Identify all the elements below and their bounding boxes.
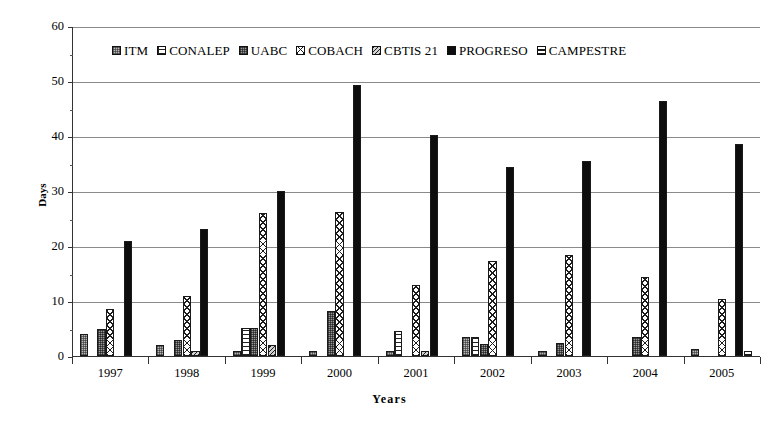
legend-swatch-icon bbox=[157, 46, 166, 55]
legend-swatch-icon bbox=[447, 46, 456, 55]
x-tick-label: 2000 bbox=[305, 366, 375, 381]
y-tick-label: 10 bbox=[30, 295, 64, 307]
bar bbox=[659, 101, 667, 356]
legend-swatch-icon bbox=[537, 46, 546, 55]
legend-label: COBACH bbox=[308, 44, 363, 57]
bar bbox=[632, 337, 640, 356]
legend-label: PROGRESO bbox=[459, 44, 528, 57]
x-tick-mark bbox=[454, 357, 455, 364]
x-axis-title: Years bbox=[0, 392, 779, 407]
x-tick-label: 1997 bbox=[75, 366, 145, 381]
legend-label: ITM bbox=[124, 44, 148, 57]
bar bbox=[200, 229, 208, 356]
bar bbox=[744, 351, 752, 357]
x-tick-mark bbox=[531, 357, 532, 364]
legend-item: CAMPESTRE bbox=[537, 44, 626, 57]
legend-label: CBTIS 21 bbox=[384, 44, 438, 57]
x-tick-label: 2003 bbox=[534, 366, 604, 381]
legend-label: CONALEP bbox=[169, 44, 230, 57]
bar bbox=[97, 329, 105, 357]
bar bbox=[353, 85, 361, 356]
bar bbox=[412, 285, 420, 357]
x-tick-label: 2002 bbox=[457, 366, 527, 381]
bar bbox=[462, 337, 470, 356]
legend-label: UABC bbox=[251, 44, 288, 57]
bar bbox=[268, 345, 276, 356]
bar bbox=[471, 337, 479, 356]
legend-swatch-icon bbox=[372, 46, 381, 55]
chart-legend: ITMCONALEPUABCCOBACHCBTIS 21PROGRESOCAMP… bbox=[112, 44, 635, 57]
bar bbox=[183, 296, 191, 357]
y-tick-label: 20 bbox=[30, 240, 64, 252]
x-tick-label: 1999 bbox=[228, 366, 298, 381]
bar bbox=[582, 161, 590, 356]
bar bbox=[191, 351, 199, 357]
bar bbox=[309, 351, 317, 357]
bar bbox=[538, 351, 546, 357]
bar bbox=[718, 299, 726, 356]
bar bbox=[506, 167, 514, 356]
bar bbox=[250, 328, 258, 356]
x-tick-mark bbox=[301, 357, 302, 364]
legend-item: PROGRESO bbox=[447, 44, 528, 57]
bar bbox=[124, 241, 132, 357]
bar bbox=[565, 255, 573, 356]
x-tick-label: 1998 bbox=[152, 366, 222, 381]
bar bbox=[106, 309, 114, 356]
x-tick-label: 2005 bbox=[687, 366, 757, 381]
y-tick-label: 0 bbox=[30, 350, 64, 362]
x-tick-mark bbox=[148, 357, 149, 364]
bars-layer bbox=[73, 27, 760, 356]
bar bbox=[174, 340, 182, 357]
x-tick-mark bbox=[225, 357, 226, 364]
y-tick-label: 60 bbox=[30, 20, 64, 32]
plot-area bbox=[72, 27, 760, 357]
x-tick-mark bbox=[607, 357, 608, 364]
bar bbox=[327, 311, 335, 356]
legend-item: UABC bbox=[239, 44, 288, 57]
legend-item: ITM bbox=[112, 44, 148, 57]
x-tick-label: 2004 bbox=[610, 366, 680, 381]
bar bbox=[259, 213, 267, 356]
legend-swatch-icon bbox=[296, 46, 305, 55]
bar bbox=[691, 349, 699, 356]
legend-item: CONALEP bbox=[157, 44, 230, 57]
bar bbox=[241, 328, 249, 356]
bar-chart: Days 0102030405060 199719981999200020012… bbox=[0, 0, 779, 428]
bar bbox=[735, 144, 743, 356]
x-tick-mark bbox=[760, 357, 761, 364]
bar bbox=[421, 351, 429, 357]
bar bbox=[480, 344, 488, 356]
bar bbox=[556, 343, 564, 356]
y-tick-label: 50 bbox=[30, 75, 64, 87]
legend-swatch-icon bbox=[112, 46, 121, 55]
bar bbox=[394, 331, 402, 356]
bar bbox=[277, 191, 285, 356]
y-tick-label: 40 bbox=[30, 130, 64, 142]
bar bbox=[335, 212, 343, 356]
bar bbox=[233, 351, 241, 357]
bar bbox=[430, 135, 438, 356]
legend-item: COBACH bbox=[296, 44, 363, 57]
bar bbox=[386, 351, 394, 357]
legend-item: CBTIS 21 bbox=[372, 44, 438, 57]
legend-label: CAMPESTRE bbox=[549, 44, 626, 57]
x-tick-label: 2001 bbox=[381, 366, 451, 381]
x-tick-mark bbox=[378, 357, 379, 364]
bar bbox=[156, 345, 164, 356]
bar bbox=[80, 334, 88, 356]
legend-swatch-icon bbox=[239, 46, 248, 55]
bar bbox=[488, 261, 496, 356]
y-tick-label: 30 bbox=[30, 185, 64, 197]
x-tick-mark bbox=[72, 357, 73, 364]
x-tick-mark bbox=[684, 357, 685, 364]
bar bbox=[641, 277, 649, 356]
